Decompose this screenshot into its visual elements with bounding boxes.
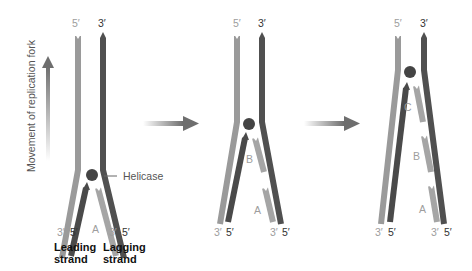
axis-label: Movement of replication fork <box>25 39 37 172</box>
helicase <box>404 66 416 78</box>
okazaki-fragment-b <box>255 138 264 172</box>
end-label-3prime-leading: 3′ <box>214 226 222 238</box>
lagging-strand-label-1: Lagging <box>103 241 146 253</box>
top-left-end-label: 5′ <box>72 17 80 29</box>
okazaki-fragment-a <box>265 188 273 222</box>
top-left-end-label: 5′ <box>394 17 402 29</box>
fork-movement-arrow <box>42 56 54 161</box>
fragment-label-b: B <box>246 153 253 165</box>
okazaki-fragment-c <box>416 86 423 122</box>
top-right-end-label: 3′ <box>258 17 266 29</box>
end-label-5prime-lagging: 5′ <box>444 226 452 238</box>
end-label-5prime-leading: 5′ <box>388 226 396 238</box>
end-label-3prime-leading: 3′ <box>57 226 65 238</box>
top-left-end-label: 5′ <box>233 17 241 29</box>
top-right-end-label: 3′ <box>98 17 106 29</box>
step-arrow-1 <box>143 116 199 131</box>
fragment-label-c: C <box>404 101 412 113</box>
end-label-3prime-lagging: 3′ <box>109 226 117 238</box>
okazaki-fragment-b <box>424 136 431 172</box>
fragment-label-b: B <box>413 150 420 162</box>
lagging-strand-label-2: strand <box>103 253 137 265</box>
end-label-5prime-leading: 5′ <box>226 226 234 238</box>
end-label-3prime-leading: 3′ <box>375 226 383 238</box>
top-right-end-label: 3′ <box>420 17 428 29</box>
okazaki-fragment-a <box>431 186 437 222</box>
panel-3: C B A <box>381 32 444 224</box>
helicase <box>243 118 255 130</box>
end-label-5prime-leading: 5′ <box>70 226 78 238</box>
panel-1: A <box>62 32 124 258</box>
end-label-5prime-lagging: 5′ <box>282 226 290 238</box>
end-label-5prime-lagging: 5′ <box>122 226 130 238</box>
end-label-3prime-lagging: 3′ <box>431 226 439 238</box>
replication-fork-diagram: Movement of replication fork A 5′ 3′ 3′ … <box>0 0 472 271</box>
fragment-label-a: A <box>92 223 99 235</box>
fragment-label-a: A <box>254 204 261 216</box>
leading-strand-label-1: Leading <box>54 241 96 253</box>
helicase <box>86 169 98 181</box>
step-arrow-2 <box>304 116 360 131</box>
end-label-3prime-lagging: 3′ <box>270 226 278 238</box>
panel-2: B A <box>220 32 281 224</box>
leading-strand-label-2: strand <box>54 253 88 265</box>
helicase-label: Helicase <box>123 170 163 182</box>
fragment-label-a: A <box>419 203 426 215</box>
